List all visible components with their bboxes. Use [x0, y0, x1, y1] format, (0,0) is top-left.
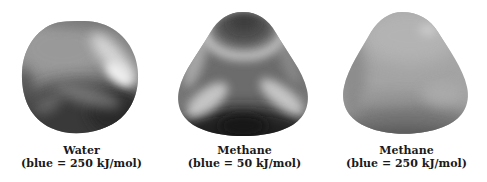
methane50-surface-shading: [173, 4, 313, 142]
molecule-name-label: Methane: [346, 144, 467, 157]
molecule-name-label: Methane: [188, 144, 301, 157]
potential-surface-methane-50: [163, 0, 326, 142]
caption-methane-50: Methane (blue = 50 kJ/mol): [188, 144, 301, 170]
potential-surface-water: [0, 0, 163, 142]
panel-water-250: Water (blue = 250 kJ/mol): [0, 0, 163, 182]
color-scale-label: (blue = 250 kJ/mol): [346, 157, 467, 170]
caption-methane-250: Methane (blue = 250 kJ/mol): [346, 144, 467, 170]
figure: Water (blue = 250 kJ/mol): [0, 0, 487, 182]
color-scale-label: (blue = 250 kJ/mol): [21, 157, 142, 170]
panel-methane-250: Methane (blue = 250 kJ/mol): [326, 0, 487, 182]
panel-methane-50: Methane (blue = 50 kJ/mol): [163, 0, 326, 182]
color-scale-label: (blue = 50 kJ/mol): [188, 157, 301, 170]
potential-surface-methane-250: [326, 0, 487, 142]
caption-water-250: Water (blue = 250 kJ/mol): [21, 144, 142, 170]
molecule-name-label: Water: [21, 144, 142, 157]
